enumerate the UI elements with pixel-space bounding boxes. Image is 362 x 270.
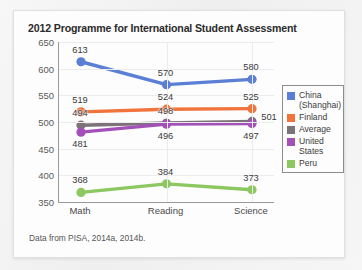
legend-color-swatch [287,92,295,100]
legend-item-label: United States [299,136,340,156]
data-point-label: 496 [158,131,174,141]
legend-item[interactable]: Average [287,124,340,134]
page-background: 2012 Programme for International Student… [0,0,362,270]
legend-color-swatch [287,114,295,122]
data-point-marker [76,128,85,137]
data-point-label: 524 [158,92,174,102]
data-point-label: 494 [72,108,88,118]
x-axis-tick-label: Math [69,205,90,216]
y-axis-tick-label: 600 [28,63,54,74]
data-point-label: 497 [243,131,259,141]
data-point-label: 481 [72,139,88,149]
y-axis-tick-label: 500 [28,117,54,128]
data-point-label: 501 [261,112,277,122]
legend-color-swatch [287,126,295,134]
vertical-gridline [167,42,168,202]
legend-item-label: Peru [299,158,317,168]
y-axis-labels: 350400450500550600650 [24,42,54,202]
legend-item-label: Average [299,124,331,134]
legend-item-label: China (Shanghai) [299,90,341,110]
y-axis-tick-label: 650 [28,37,54,48]
legend-color-swatch [287,160,295,168]
x-axis-tick-label: Science [234,205,268,216]
data-point-label: 519 [72,95,88,105]
plot-area [58,42,274,203]
source-note: Data from PISA, 2014a, 2014b. [29,233,145,243]
y-axis-tick-label: 350 [28,197,54,208]
chart-title: 2012 Programme for International Student… [28,22,297,34]
legend-item-label: Finland [299,112,327,122]
y-axis-tick-label: 400 [28,170,54,181]
legend-item[interactable]: United States [287,136,340,156]
legend-item[interactable]: China (Shanghai) [287,90,340,110]
data-point-label: 384 [158,167,174,177]
data-point-label: 373 [243,173,259,183]
data-point-label: 570 [158,68,174,78]
data-point-label: 368 [72,175,88,185]
legend-color-swatch [287,138,295,146]
data-point-label: 613 [72,45,88,55]
chart-card: 2012 Programme for International Student… [13,10,345,258]
data-point-label: 580 [243,62,259,72]
data-point-marker [76,188,85,197]
legend-item[interactable]: Finland [287,112,340,122]
data-point-label: 525 [243,92,259,102]
data-point-label: 498 [158,106,174,116]
data-point-marker [76,57,85,66]
y-axis-tick-label: 450 [28,143,54,154]
x-axis-tick-label: Reading [148,205,183,216]
legend-item[interactable]: Peru [287,158,340,168]
y-axis-tick-label: 550 [28,90,54,101]
chart-legend: China (Shanghai)FinlandAverageUnited Sta… [282,85,344,173]
